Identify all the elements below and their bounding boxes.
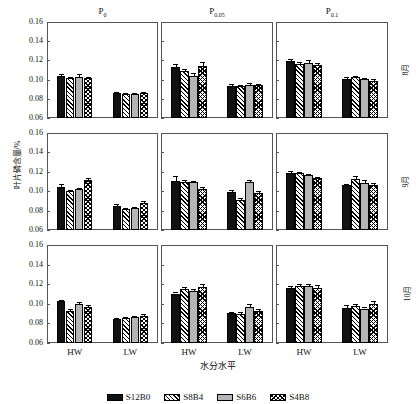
error-bar-cap bbox=[77, 302, 82, 303]
legend-swatch-S12B0 bbox=[107, 394, 123, 401]
error-bar-cap bbox=[256, 191, 261, 192]
error-bar-cap bbox=[247, 304, 252, 305]
y-tick-mark bbox=[276, 152, 279, 153]
bar-S8B4-LW bbox=[236, 200, 244, 230]
error-bar-cap bbox=[68, 309, 73, 310]
bar-S4B8-LW bbox=[369, 304, 377, 343]
y-tick-mark bbox=[161, 80, 164, 81]
error-bar-cap bbox=[306, 174, 311, 175]
error-bar-cap bbox=[344, 77, 349, 78]
error-bar-cap bbox=[141, 92, 146, 93]
bar-S6B6-HW bbox=[304, 63, 312, 118]
row-label-2: 10月 bbox=[401, 286, 412, 302]
y-tick-mark bbox=[276, 60, 279, 61]
bar-S6B6-LW bbox=[360, 309, 368, 343]
error-bar-cap bbox=[297, 284, 302, 285]
error-bar-cap bbox=[132, 316, 137, 317]
y-tick-label: 0.08 bbox=[17, 206, 43, 215]
y-tick-label: 0.08 bbox=[17, 94, 43, 103]
x-tick-label-LW: LW bbox=[217, 347, 273, 357]
bar-S12B0-LW bbox=[342, 79, 350, 118]
bar-S8B4-LW bbox=[236, 86, 244, 118]
bar-S4B8-HW bbox=[84, 78, 92, 118]
error-bar-cap bbox=[362, 307, 367, 308]
y-tick-label: 0.14 bbox=[17, 147, 43, 156]
bar-S12B0-HW bbox=[171, 181, 179, 230]
y-tick-mark bbox=[161, 265, 164, 266]
bar-S6B6-LW bbox=[131, 208, 139, 230]
row-label-1: 9月 bbox=[399, 175, 410, 187]
error-bar-cap bbox=[141, 314, 146, 315]
error-bar-cap bbox=[288, 59, 293, 60]
legend-label-S4B8: S4B8 bbox=[289, 392, 309, 402]
legend-swatch-S6B6 bbox=[217, 394, 233, 401]
error-bar-cap bbox=[86, 77, 91, 78]
bar-S12B0-LW bbox=[227, 86, 235, 118]
chart-legend: S12B0S8B4S6B6S4B8 bbox=[0, 392, 416, 402]
error-bar-cap bbox=[77, 188, 82, 189]
y-tick-mark bbox=[47, 211, 50, 212]
y-tick-label: 0.06 bbox=[17, 113, 43, 122]
legend-label-S12B0: S12B0 bbox=[126, 392, 151, 402]
y-tick-mark bbox=[161, 230, 164, 231]
y-tick-mark bbox=[161, 60, 164, 61]
error-bar-cap bbox=[191, 73, 196, 74]
error-bar-cap bbox=[353, 76, 358, 77]
y-tick-mark bbox=[276, 133, 279, 134]
y-tick-label: 0.16 bbox=[17, 240, 43, 249]
error-bar-cap bbox=[59, 74, 64, 75]
x-tick-label-LW: LW bbox=[103, 347, 159, 357]
bar-S4B8-HW bbox=[313, 288, 321, 343]
error-bar-cap bbox=[238, 198, 243, 199]
y-tick-mark bbox=[47, 118, 50, 119]
column-title-2: P0.1 bbox=[276, 6, 388, 18]
bar-S4B8-HW bbox=[84, 180, 92, 230]
error-bar-cap bbox=[182, 287, 187, 288]
error-bar-cap bbox=[362, 78, 367, 79]
bar-S12B0-LW bbox=[342, 185, 350, 230]
y-tick-mark bbox=[276, 265, 279, 266]
error-bar-cap bbox=[123, 93, 128, 94]
error-bar-cap bbox=[68, 190, 73, 191]
error-bar-cap bbox=[191, 181, 196, 182]
bar-S4B8-HW bbox=[198, 189, 206, 230]
bar-S8B4-LW bbox=[122, 318, 130, 343]
bar-S12B0-LW bbox=[113, 319, 121, 343]
error-bar-cap bbox=[59, 184, 64, 185]
bar-S4B8-LW bbox=[140, 316, 148, 343]
bar-S4B8-LW bbox=[369, 81, 377, 118]
y-tick-label: 0.14 bbox=[17, 36, 43, 45]
error-bar-cap bbox=[229, 84, 234, 85]
bar-S4B8-HW bbox=[198, 66, 206, 118]
bar-S8B4-LW bbox=[351, 179, 359, 230]
bar-S12B0-HW bbox=[286, 61, 294, 118]
error-bar-cap bbox=[132, 207, 137, 208]
y-tick-mark bbox=[47, 80, 50, 81]
x-tick-label-HW: HW bbox=[276, 347, 332, 357]
bar-S6B6-LW bbox=[131, 94, 139, 118]
error-bar-cap bbox=[132, 93, 137, 94]
y-tick-mark bbox=[47, 152, 50, 153]
y-tick-label: 0.10 bbox=[17, 299, 43, 308]
error-bar-cap bbox=[114, 318, 119, 319]
y-tick-mark bbox=[161, 172, 164, 173]
legend-item-S4B8: S4B8 bbox=[270, 392, 309, 402]
bar-S6B6-HW bbox=[75, 189, 83, 230]
y-tick-mark bbox=[47, 99, 50, 100]
error-bar-cap bbox=[362, 180, 367, 181]
error-bar-cap bbox=[173, 64, 178, 65]
y-tick-mark bbox=[161, 133, 164, 134]
error-bar-cap bbox=[315, 177, 320, 178]
y-tick-mark bbox=[47, 265, 50, 266]
bar-S8B4-HW bbox=[180, 71, 188, 118]
y-tick-label: 0.10 bbox=[17, 186, 43, 195]
bar-S8B4-LW bbox=[351, 77, 359, 118]
y-tick-mark bbox=[276, 118, 279, 119]
bar-S8B4-HW bbox=[180, 289, 188, 343]
error-bar-cap bbox=[229, 190, 234, 191]
y-tick-mark bbox=[47, 343, 50, 344]
y-tick-mark bbox=[47, 60, 50, 61]
error-bar-cap bbox=[114, 92, 119, 93]
bar-S6B6-LW bbox=[360, 79, 368, 118]
y-tick-mark bbox=[47, 323, 50, 324]
